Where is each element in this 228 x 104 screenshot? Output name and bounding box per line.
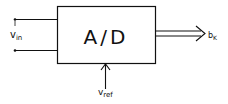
input-label: vin bbox=[10, 29, 22, 42]
output-label: bK bbox=[208, 31, 218, 41]
ad-converter-diagram: A/D vin bK vref bbox=[0, 0, 228, 104]
input-terminal-bottom bbox=[14, 49, 17, 52]
block-label: A/D bbox=[84, 25, 129, 49]
output-arrow-icon bbox=[196, 26, 205, 41]
input-terminal-top bbox=[14, 18, 17, 21]
